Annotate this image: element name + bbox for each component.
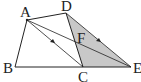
label-b: B (3, 60, 13, 76)
label-c: C (78, 69, 88, 82)
label-d: D (61, 0, 72, 14)
geometry-diagram: A B C D E F (0, 0, 141, 82)
label-e: E (133, 60, 141, 76)
segment-ad (27, 13, 66, 20)
label-a: A (20, 4, 31, 20)
segment-ab (15, 20, 27, 67)
label-f: F (77, 30, 85, 46)
